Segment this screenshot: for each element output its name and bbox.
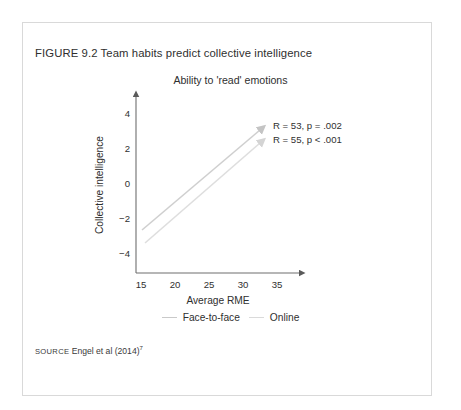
legend-label: Online	[270, 312, 299, 323]
legend-item-face-to-face: Face-to-face	[162, 312, 240, 323]
y-tick-label: 0	[125, 178, 130, 189]
chart-legend: Face-to-face Online	[0, 312, 461, 323]
x-axis-title: Average RME	[186, 295, 249, 306]
y-tick-label: −4	[119, 248, 131, 259]
annotation-face-to-face: R = 53, p = .002	[273, 120, 342, 131]
source-superscript: 7	[140, 345, 143, 351]
y-tick-label: 2	[125, 143, 130, 154]
x-tick-label: 30	[238, 279, 249, 290]
legend-item-online: Online	[249, 312, 299, 323]
series-line-online	[145, 143, 260, 243]
source-label: SOURCE	[35, 347, 69, 356]
x-tick-label: 35	[272, 279, 283, 290]
source-note: SOURCE Engel et al (2014)7	[35, 345, 143, 356]
y-axis-title: Collective intelligence	[94, 136, 105, 234]
legend-swatch-icon	[162, 317, 177, 319]
y-tick-label: 4	[125, 108, 131, 119]
legend-swatch-icon	[249, 317, 264, 319]
annotation-online: R = 55, p < .001	[273, 134, 342, 145]
x-tick-label: 25	[204, 279, 215, 290]
x-tick-label: 15	[136, 279, 147, 290]
source-text: Engel et al (2014)	[72, 346, 140, 356]
series-line-face-to-face	[142, 130, 260, 230]
legend-label: Face-to-face	[183, 312, 240, 323]
y-tick-label: −2	[119, 213, 130, 224]
x-tick-label: 20	[170, 279, 181, 290]
